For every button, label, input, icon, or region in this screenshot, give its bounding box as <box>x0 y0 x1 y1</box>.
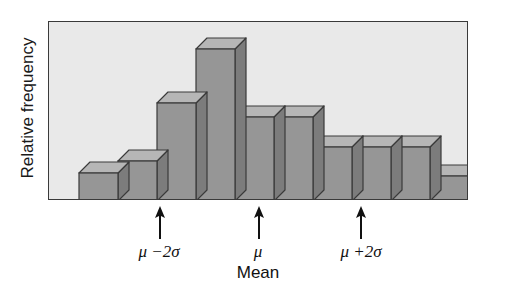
plot-area <box>48 21 468 200</box>
arrow-up-icon-mu <box>251 206 267 240</box>
annotation-mu-plus-2sigma-label: μ +2σ <box>311 243 411 260</box>
annotation-mu-label: μ <box>233 243 283 260</box>
arrow-up-icon-mu-plus-2sigma <box>353 206 369 240</box>
annotation-mu-minus-2sigma: μ −2σ <box>109 243 209 260</box>
bars-group <box>49 22 468 200</box>
annotation-mu-minus-2sigma-label: μ −2σ <box>109 243 209 260</box>
x-axis-label: Mean <box>233 263 283 283</box>
y-axis-label: Relative frequency <box>18 8 38 208</box>
arrow-up-icon-mu-minus-2sigma <box>152 206 168 240</box>
histogram-bar <box>79 162 129 200</box>
annotation-mu: μ Mean <box>233 243 283 283</box>
annotation-mu-plus-2sigma: μ +2σ <box>311 243 411 260</box>
histogram-figure: Relative frequency μ −2σ μ Mean μ +2σ <box>0 0 510 303</box>
